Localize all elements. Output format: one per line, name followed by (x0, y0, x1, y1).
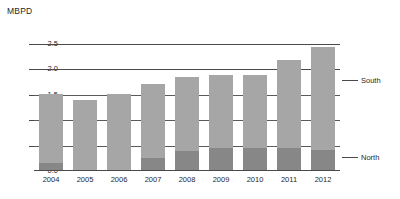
legend-item-south: South (342, 76, 381, 85)
bar-2006 (107, 94, 131, 171)
x-axis-tick-label: 2006 (102, 175, 136, 184)
x-axis-tick-label: 2010 (238, 175, 272, 184)
bar-segment-south (141, 84, 165, 158)
bar-segment-south (209, 75, 233, 148)
y-axis-tick (29, 69, 34, 70)
bar-2008 (175, 77, 199, 171)
bar-segment-north (243, 148, 267, 171)
bar-segment-north (209, 148, 233, 171)
y-axis-tick (29, 44, 34, 45)
legend-label: North (361, 153, 379, 162)
bar-segment-north (175, 151, 199, 171)
x-axis-tick-label: 2005 (68, 175, 102, 184)
x-axis-tick-label: 2009 (204, 175, 238, 184)
bar-segment-north (311, 150, 335, 171)
bar-2011 (277, 60, 301, 171)
x-axis-tick-label: 2012 (306, 175, 340, 184)
legend-label: South (361, 76, 381, 85)
legend-leader-line (342, 80, 358, 81)
gridline (34, 44, 340, 45)
y-axis-tick (29, 95, 34, 96)
bar-segment-south (243, 75, 267, 148)
bar-2012 (311, 47, 335, 171)
plot-area (34, 31, 340, 171)
x-axis-tick-label: 2004 (34, 175, 68, 184)
bar-2010 (243, 75, 267, 171)
bar-segment-south (277, 60, 301, 148)
x-axis-line (34, 170, 340, 171)
x-axis-tick-label: 2007 (136, 175, 170, 184)
bar-segment-south (39, 94, 63, 164)
y-axis-title: MBPD (7, 6, 32, 16)
bar-segment-south (107, 94, 131, 171)
bar-segment-south (73, 100, 97, 171)
x-axis-tick-label: 2008 (170, 175, 204, 184)
bar-segment-south (175, 77, 199, 151)
bar-chart: MBPD 0.00.51.01.52.02.5 2004200520062007… (0, 0, 400, 199)
bar-2004 (39, 94, 63, 171)
bar-2007 (141, 84, 165, 171)
bar-segment-north (277, 148, 301, 171)
y-axis-tick (29, 120, 34, 121)
bar-2005 (73, 100, 97, 171)
bar-segment-south (311, 47, 335, 149)
x-axis-tick-label: 2011 (272, 175, 306, 184)
y-axis-tick (29, 146, 34, 147)
legend-item-north: North (342, 153, 379, 162)
legend-leader-line (342, 157, 358, 158)
bar-2009 (209, 75, 233, 171)
